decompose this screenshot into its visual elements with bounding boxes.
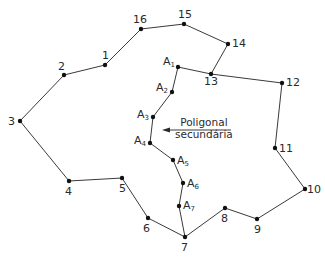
survey-point-marker <box>182 22 186 26</box>
survey-point-marker <box>67 179 71 183</box>
point-label-4: 4 <box>65 186 72 197</box>
traverse-diagram <box>0 0 325 259</box>
point-label-a1: A1 <box>163 56 175 69</box>
survey-point-marker <box>103 63 107 67</box>
survey-point-marker <box>146 216 150 220</box>
survey-point-marker <box>280 81 284 85</box>
point-label-5: 5 <box>119 183 126 194</box>
point-label-14: 14 <box>232 38 246 49</box>
survey-point-marker <box>148 141 152 145</box>
survey-point-marker <box>18 119 22 123</box>
survey-point-marker <box>226 42 230 46</box>
point-label-a6: A6 <box>187 178 199 191</box>
point-label-2: 2 <box>58 61 65 72</box>
survey-point-marker <box>171 158 175 162</box>
point-label-1: 1 <box>102 50 109 61</box>
point-label-7: 7 <box>181 242 188 253</box>
point-label-a3: A3 <box>137 109 149 122</box>
point-label-a4: A4 <box>134 135 146 148</box>
point-label-a7: A7 <box>183 200 195 213</box>
survey-point-marker <box>120 176 124 180</box>
caption-line1: Poligonal <box>175 117 233 129</box>
survey-point-marker <box>170 90 174 94</box>
point-label-8: 8 <box>221 213 228 224</box>
survey-point-marker <box>177 204 181 208</box>
survey-point-marker <box>62 73 66 77</box>
point-label-6: 6 <box>143 223 150 234</box>
point-label-a2: A2 <box>156 82 168 95</box>
survey-point-marker <box>139 27 143 31</box>
point-label-12: 12 <box>286 77 300 88</box>
survey-point-marker <box>223 206 227 210</box>
point-label-3: 3 <box>8 116 15 127</box>
survey-point-marker <box>151 115 155 119</box>
survey-point-marker <box>183 235 187 239</box>
survey-point-marker <box>273 146 277 150</box>
survey-point-marker <box>181 181 185 185</box>
caption-line2: secundária <box>175 129 233 141</box>
point-label-10: 10 <box>307 184 321 195</box>
survey-point-marker <box>255 217 259 221</box>
point-label-13: 13 <box>204 76 218 87</box>
point-label-a5: A5 <box>177 155 189 168</box>
survey-point-marker <box>176 65 180 69</box>
point-label-15: 15 <box>178 9 192 20</box>
point-label-16: 16 <box>133 14 147 25</box>
secondary-polygon-caption: Poligonal secundária <box>175 117 233 140</box>
point-label-9: 9 <box>254 224 261 235</box>
point-label-11: 11 <box>279 143 293 154</box>
